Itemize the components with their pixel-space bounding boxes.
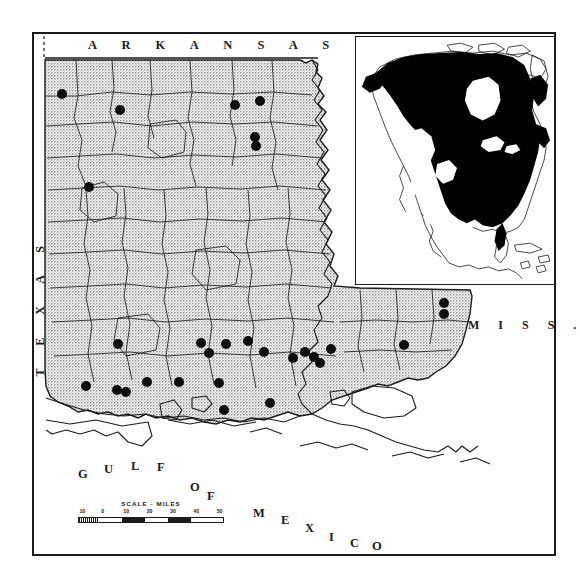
locality-dot: [255, 96, 265, 106]
locality-dot: [399, 340, 409, 350]
locality-dot: [288, 353, 298, 363]
scale-bar-title: SCALE - MILES: [78, 500, 224, 507]
locality-dot: [204, 348, 214, 358]
gulf-letter: I: [329, 530, 334, 545]
gulf-letter: G: [78, 467, 88, 482]
scale-tick: 40: [193, 508, 199, 514]
scale-tick: 50: [217, 508, 223, 514]
gulf-letter: X: [305, 521, 314, 536]
gulf-letter: O: [190, 480, 200, 495]
locality-dot: [112, 385, 122, 395]
gulf-letter: L: [131, 459, 139, 474]
gulf-letter: O: [372, 539, 382, 554]
scale-tick: 20: [147, 508, 153, 514]
locality-dot: [300, 347, 310, 357]
locality-dot: [439, 298, 449, 308]
north-america-inset: [355, 36, 555, 285]
locality-dot: [115, 105, 125, 115]
locality-dot: [259, 347, 269, 357]
locality-dot: [214, 378, 224, 388]
label-arkansas: A R K A N S A S: [88, 38, 340, 53]
scale-tick: 0: [101, 508, 104, 514]
locality-dot: [243, 336, 253, 346]
locality-dot: [265, 398, 275, 408]
locality-dot: [121, 387, 131, 397]
locality-dot: [315, 358, 325, 368]
gulf-letter: C: [350, 536, 359, 551]
locality-dot: [251, 141, 261, 151]
gulf-letter: M: [253, 506, 265, 521]
locality-dot: [219, 405, 229, 415]
scale-bar: SCALE - MILES 10 0 10 20 30 40 50: [78, 500, 224, 523]
locality-dot: [326, 344, 336, 354]
locality-dot: [84, 182, 94, 192]
scale-tick: 30: [170, 508, 176, 514]
scale-tick: 10: [123, 508, 129, 514]
label-texas: T E X A S: [33, 236, 48, 376]
locality-dot: [81, 381, 91, 391]
scale-tick: 10: [79, 508, 85, 514]
scale-bar-graphic: [78, 517, 224, 523]
locality-dot: [142, 377, 152, 387]
locality-dot: [250, 132, 260, 142]
locality-dot: [174, 377, 184, 387]
locality-dot: [221, 339, 231, 349]
locality-dot: [196, 338, 206, 348]
scale-bar-ticks: 10 0 10 20 30 40 50: [78, 508, 224, 517]
inset-canvas: [356, 37, 554, 284]
gulf-letter: U: [104, 462, 113, 477]
locality-dot: [230, 100, 240, 110]
distribution-map-figure: A R K A N S A S T E X A S M I S S . G U …: [0, 0, 580, 578]
gulf-letter: F: [157, 460, 165, 475]
gulf-letter: E: [281, 513, 289, 528]
label-mississippi: M I S S .: [468, 318, 580, 333]
inset-range-shading: [362, 52, 550, 251]
locality-dot: [57, 89, 67, 99]
locality-dot: [113, 339, 123, 349]
locality-dot: [439, 309, 449, 319]
